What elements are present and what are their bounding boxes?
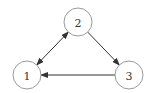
node-2: 2 [64, 8, 92, 36]
node-3: 3 [115, 61, 143, 89]
edge-2-3 [88, 32, 120, 65]
graph-diagram: 123 [0, 0, 154, 93]
edge-1-2 [37, 32, 69, 65]
node-label: 1 [24, 70, 31, 83]
node-label: 3 [126, 70, 133, 83]
node-label: 2 [75, 17, 82, 30]
nodes-layer: 123 [13, 8, 143, 89]
edges-layer [37, 32, 120, 75]
node-1: 1 [13, 61, 41, 89]
